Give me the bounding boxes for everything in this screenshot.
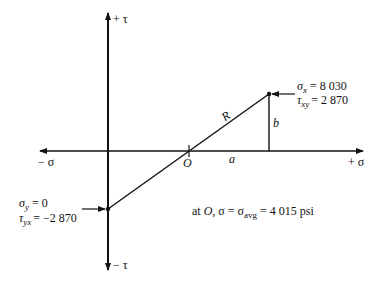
a-label: a	[229, 152, 235, 166]
point-x	[267, 92, 271, 96]
svg-text:σy= 0: σy= 0	[19, 196, 48, 212]
svg-text:τxy= 2 870: τxy= 2 870	[297, 93, 348, 109]
mohr-diagram: + τ − τ + σ − σ O R a b σx= 8 030 τxy= 2…	[0, 0, 381, 283]
svg-text:τyx= −2 870: τyx= −2 870	[19, 211, 77, 227]
point-y-annotation: σy= 0 τyx= −2 870	[19, 196, 77, 227]
pos-sigma-label: + σ	[348, 155, 365, 169]
point-y	[106, 207, 110, 211]
radius-label: R	[218, 108, 233, 125]
center-note: at O, σ = σavg = 4 015 psi	[192, 204, 315, 220]
neg-sigma-label: − σ	[38, 155, 55, 169]
b-label: b	[273, 116, 279, 130]
neg-tau-label: − τ	[113, 258, 128, 272]
point-x-annotation: σx= 8 030 τxy= 2 870	[297, 79, 348, 109]
pos-tau-label: + τ	[113, 12, 128, 26]
center-label: O	[183, 156, 192, 170]
